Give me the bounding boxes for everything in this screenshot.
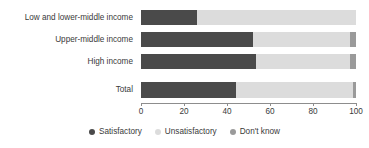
axis-tick-label: 100: [349, 108, 363, 116]
legend-item[interactable]: Satisfactory: [89, 128, 142, 136]
axis-tick-label: 60: [265, 108, 274, 116]
circle-swatch-icon: [230, 129, 236, 135]
legend-label: Don't know: [240, 128, 280, 136]
bar-segment: [350, 54, 356, 69]
bar-segment: [141, 82, 236, 98]
axis-tick-mark: [141, 103, 142, 106]
axis-tick-mark: [184, 103, 185, 106]
axis-line: [141, 103, 356, 104]
legend-item[interactable]: Don't know: [230, 128, 280, 136]
axis-tick-label: 20: [179, 108, 188, 116]
bar-segment: [236, 82, 353, 98]
category-label: Upper-middle income: [0, 36, 133, 44]
plot-area: [141, 0, 356, 103]
axis-tick-label: 0: [139, 108, 144, 116]
chart-legend: SatisfactoryUnsatisfactoryDon't know: [0, 128, 369, 136]
bar-segment: [141, 54, 256, 69]
value-axis: 020406080100: [141, 103, 356, 123]
bar-row: [141, 54, 356, 69]
legend-item[interactable]: Unsatisfactory: [155, 128, 217, 136]
axis-tick-label: 80: [308, 108, 317, 116]
legend-label: Unsatisfactory: [165, 128, 217, 136]
legend-label: Satisfactory: [99, 128, 142, 136]
axis-tick-mark: [227, 103, 228, 106]
category-axis-labels: Low and lower-middle incomeUpper-middle …: [0, 0, 133, 100]
axis-tick-label: 40: [222, 108, 231, 116]
circle-swatch-icon: [89, 129, 95, 135]
category-label: High income: [0, 58, 133, 66]
bar-segment: [141, 32, 253, 47]
bar-row: [141, 32, 356, 47]
bar-segment: [353, 82, 356, 98]
stacked-bar-chart: Low and lower-middle incomeUpper-middle …: [0, 0, 369, 148]
bar-segment: [141, 10, 197, 25]
category-label: Total: [0, 86, 133, 94]
axis-tick-mark: [270, 103, 271, 106]
bar-segment: [350, 32, 356, 47]
bar-row: [141, 82, 356, 98]
category-label: Low and lower-middle income: [0, 14, 133, 22]
axis-tick-mark: [356, 103, 357, 106]
bar-segment: [253, 32, 350, 47]
axis-tick-mark: [313, 103, 314, 106]
bar-row: [141, 10, 356, 25]
circle-swatch-icon: [155, 129, 161, 135]
bar-segment: [256, 54, 350, 69]
bar-segment: [197, 10, 356, 25]
